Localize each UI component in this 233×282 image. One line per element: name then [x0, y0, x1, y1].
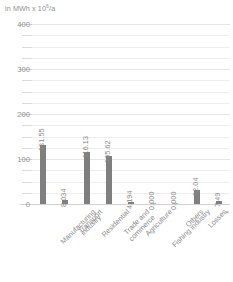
bar-value-label: 8.034 [59, 188, 68, 207]
y-axis-tick-minor [22, 35, 32, 36]
y-axis-tick-minor [22, 103, 32, 104]
y-axis-unit-prefix: in MWh x 10 [5, 4, 46, 13]
bar-value-label: 32.04 [191, 178, 200, 197]
y-axis-tick-minor [22, 92, 32, 93]
y-axis-tick-label: 200 [0, 110, 30, 119]
gridline-minor [32, 103, 230, 104]
bar-value-label: 0.000 [169, 191, 178, 210]
y-axis-tick-minor [22, 148, 32, 149]
gridline-minor [32, 92, 230, 93]
y-axis-tick-minor [22, 58, 32, 59]
bar-value-label: 0.000 [147, 191, 156, 210]
gridline-minor [32, 137, 230, 138]
y-axis-tick-label: 300 [0, 65, 30, 74]
y-axis-tick-label: 100 [0, 155, 30, 164]
y-axis-tick-minor [22, 80, 32, 81]
plot-area [32, 24, 230, 204]
gridline-minor [32, 47, 230, 48]
gridline-major [32, 159, 230, 160]
y-axis-tick-label: 400 [0, 20, 30, 29]
gridline-major [32, 114, 230, 115]
gridline-major [32, 24, 230, 25]
bar-value-label: 131.55 [37, 129, 46, 152]
gridline-minor [32, 148, 230, 149]
bar [40, 145, 46, 204]
y-axis-unit-suffix: /a [49, 4, 55, 13]
y-axis-tick-label: 0 [0, 200, 30, 209]
gridline-minor [32, 35, 230, 36]
y-axis-tick-minor [22, 170, 32, 171]
bar [84, 152, 90, 204]
y-axis-tick-minor [22, 182, 32, 183]
gridline-minor [32, 170, 230, 171]
y-axis-tick-minor [22, 47, 32, 48]
bar-value-label: 7.49 [213, 193, 222, 207]
y-axis-tick-minor [22, 137, 32, 138]
gridline-minor [32, 58, 230, 59]
y-axis-tick-minor [22, 193, 32, 194]
gridline-minor [32, 80, 230, 81]
gridline-major [32, 69, 230, 70]
y-axis-tick-minor [22, 125, 32, 126]
bar-value-label: 105.62 [103, 140, 112, 163]
gridline-minor [32, 182, 230, 183]
bar-value-label: 116.13 [81, 136, 90, 158]
gridline-minor [32, 125, 230, 126]
bar-value-label: 4.194 [125, 190, 134, 209]
bar-chart: in MWh x 106/a 0100200300400 131.558.034… [0, 0, 233, 282]
y-axis-unit-label: in MWh x 106/a [5, 4, 55, 13]
bar [106, 156, 112, 204]
